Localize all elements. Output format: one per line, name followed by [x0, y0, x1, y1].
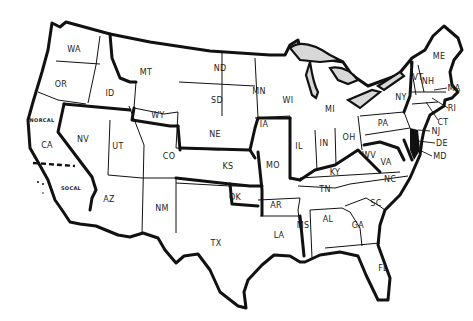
state-label-nv: NV — [77, 135, 89, 144]
state-label-id: ID — [105, 89, 114, 98]
state-label-mi: MI — [325, 105, 335, 114]
state-label-ga: GA — [352, 221, 364, 230]
state-label-nc: NC — [384, 175, 396, 184]
state-label-al: AL — [323, 215, 334, 224]
state-label-ca: CA — [41, 141, 53, 150]
state-label-mn: MN — [252, 87, 266, 96]
state-label-norcal: NORCAL — [30, 117, 55, 123]
state-label-ri: RI — [448, 104, 457, 113]
state-label-nj: NJ — [432, 127, 441, 136]
state-label-de: DE — [436, 139, 448, 148]
state-label-or: OR — [55, 80, 67, 89]
state-label-socal: SOCAL — [61, 185, 81, 191]
state-label-in: IN — [320, 139, 329, 148]
state-label-nh: NH — [422, 77, 435, 86]
state-label-ok: OK — [229, 193, 241, 202]
state-label-il: IL — [295, 142, 302, 151]
state-label-co: CO — [163, 152, 175, 161]
state-label-wi: WI — [283, 96, 294, 105]
state-label-wv: WV — [362, 151, 376, 160]
state-label-ne: NE — [209, 130, 221, 139]
state-label-ar: AR — [270, 201, 282, 210]
state-label-ma: MA — [448, 84, 461, 93]
state-label-ks: KS — [223, 162, 234, 171]
state-label-pa: PA — [378, 119, 388, 128]
state-label-va: VA — [380, 158, 391, 167]
state-label-fl: FL — [378, 264, 388, 273]
state-label-wy: WY — [151, 111, 164, 120]
state-label-tx: TX — [211, 239, 222, 248]
state-label-sd: SD — [211, 96, 223, 105]
state-label-ny: NY — [395, 93, 406, 102]
state-label-az: AZ — [103, 195, 115, 204]
state-label-ut: UT — [112, 142, 123, 151]
state-label-la: LA — [274, 231, 285, 240]
state-label-ia: IA — [260, 120, 268, 129]
state-label-tn: TN — [319, 185, 330, 194]
state-label-ms: MS — [297, 221, 310, 230]
state-label-wa: WA — [67, 45, 81, 54]
state-label-mt: MT — [140, 68, 152, 77]
state-label-me: ME — [433, 52, 446, 61]
country-outline — [28, 22, 462, 308]
state-label-nm: NM — [155, 204, 169, 213]
state-label-md: MD — [433, 152, 447, 161]
state-label-ky: KY — [330, 168, 340, 177]
state-label-ct: CT — [437, 118, 448, 127]
state-label-oh: OH — [343, 133, 356, 142]
state-label-sc: SC — [370, 199, 381, 208]
state-label-nd: ND — [214, 64, 227, 73]
state-label-mo: MO — [266, 161, 280, 170]
